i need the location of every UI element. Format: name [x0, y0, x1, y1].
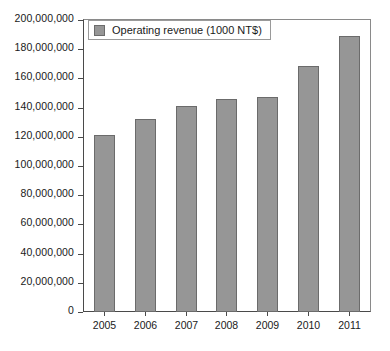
y-axis-tick-mark — [78, 49, 83, 50]
y-axis-tick-label: 80,000,000 — [20, 187, 74, 199]
y-axis-tick-mark — [78, 254, 83, 255]
bars-layer — [84, 20, 370, 312]
bar-2009[interactable] — [257, 97, 278, 312]
x-axis-tick-label: 2007 — [175, 319, 198, 331]
y-axis-tick-label: 40,000,000 — [20, 246, 74, 258]
x-axis-tick-label: 2010 — [297, 319, 320, 331]
legend-swatch-operating-revenue — [94, 25, 105, 36]
x-axis-tick-mark — [104, 312, 105, 316]
bar-2006[interactable] — [135, 119, 156, 312]
y-axis-tick-mark — [78, 78, 83, 79]
bar-2007[interactable] — [176, 106, 197, 312]
bar-chart: 200,000,000180,000,000160,000,000140,000… — [0, 0, 390, 351]
y-axis-tick-label: 0 — [68, 304, 74, 316]
x-axis-tick-mark — [267, 312, 268, 316]
y-axis-tick-label: 60,000,000 — [20, 216, 74, 228]
y-axis-tick-label: 200,000,000 — [15, 12, 75, 24]
y-axis-tick-label: 160,000,000 — [15, 70, 75, 82]
x-axis-tick-mark — [145, 312, 146, 316]
y-axis-tick-mark — [78, 283, 83, 284]
y-axis: 200,000,000180,000,000160,000,000140,000… — [0, 19, 83, 312]
x-axis: 2005200620072008200920102011 — [84, 312, 370, 340]
x-axis-tick-mark — [349, 312, 350, 316]
y-axis-tick-mark — [78, 20, 83, 21]
y-axis-tick-label: 100,000,000 — [15, 158, 75, 170]
bar-2008[interactable] — [216, 99, 237, 312]
x-axis-tick-label: 2006 — [134, 319, 157, 331]
x-axis-tick-mark — [226, 312, 227, 316]
y-axis-tick-label: 180,000,000 — [15, 41, 75, 53]
y-axis-tick-mark — [78, 166, 83, 167]
x-axis-tick-label: 2005 — [93, 319, 116, 331]
bar-2005[interactable] — [94, 135, 115, 312]
y-axis-tick-label: 20,000,000 — [20, 275, 74, 287]
y-axis-tick-mark — [78, 312, 83, 313]
y-axis-tick-mark — [78, 137, 83, 138]
chart-legend: Operating revenue (1000 NT$) — [88, 20, 271, 40]
x-axis-tick-label: 2008 — [215, 319, 238, 331]
y-axis-tick-mark — [78, 224, 83, 225]
x-axis-tick-label: 2011 — [338, 319, 361, 331]
bar-2011[interactable] — [339, 36, 360, 312]
x-axis-tick-mark — [308, 312, 309, 316]
legend-label-operating-revenue: Operating revenue (1000 NT$) — [112, 24, 262, 36]
y-axis-tick-mark — [78, 108, 83, 109]
y-axis-tick-label: 140,000,000 — [15, 100, 75, 112]
x-axis-tick-mark — [186, 312, 187, 316]
y-axis-tick-mark — [78, 195, 83, 196]
bar-2010[interactable] — [298, 66, 319, 312]
x-axis-tick-label: 2009 — [256, 319, 279, 331]
y-axis-tick-label: 120,000,000 — [15, 129, 75, 141]
